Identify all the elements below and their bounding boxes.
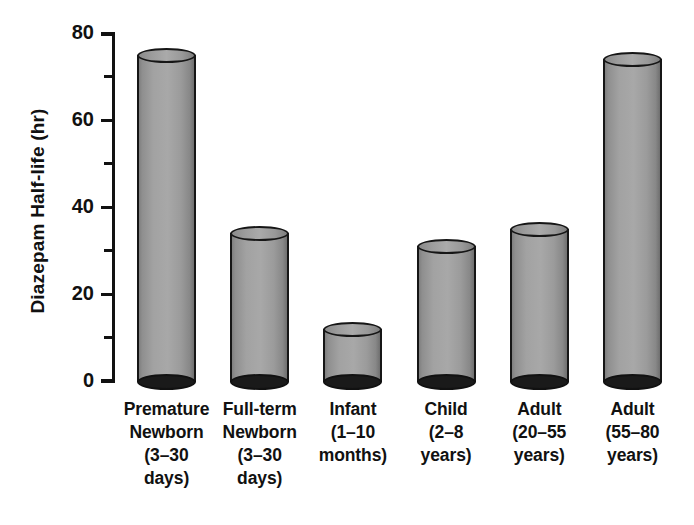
x-axis-category-label: Adult(20–55years) (491, 398, 587, 467)
bar (230, 226, 289, 390)
bar-top-ellipse (417, 239, 476, 254)
x-axis-category-label: Child(2–8years) (398, 398, 494, 467)
x-axis-category-label-line: months) (305, 444, 401, 467)
bar-base-ellipse (510, 374, 569, 390)
bar-base-ellipse (230, 374, 289, 390)
bar-top-ellipse (603, 52, 662, 67)
x-axis-category-label-line: Adult (491, 398, 587, 421)
x-axis-category-label-line: (20–55 (491, 421, 587, 444)
x-axis-category-label-line: days) (119, 467, 215, 490)
bar-body (417, 246, 476, 382)
bar-body (510, 229, 569, 382)
x-axis-category-label-line: years) (398, 444, 494, 467)
x-axis-category-label-line: (2–8 (398, 421, 494, 444)
y-axis-minor-tick (104, 162, 115, 165)
x-axis-category-label-line: Adult (585, 398, 681, 421)
y-axis-major-tick (101, 32, 115, 35)
y-axis-major-tick (101, 119, 115, 122)
x-axis-category-label-line: years) (585, 444, 681, 467)
bar-top-ellipse (510, 222, 569, 237)
y-axis-major-tick (101, 380, 115, 383)
y-axis-tick-label: 80 (34, 22, 94, 42)
bar-top-ellipse (323, 322, 382, 337)
x-axis-category-label: Adult(55–80years) (585, 398, 681, 467)
x-axis-category-label-line: Premature (119, 398, 215, 421)
x-axis-category-label-line: years) (491, 444, 587, 467)
x-axis-category-label: Full-termNewborn(3–30days) (212, 398, 308, 490)
x-axis-category-label-line: Full-term (212, 398, 308, 421)
x-axis-category-label: Infant(1–10months) (305, 398, 401, 467)
x-axis-category-label-line: Child (398, 398, 494, 421)
bar (137, 48, 196, 390)
bar-base-ellipse (137, 374, 196, 390)
bar-base-ellipse (323, 374, 382, 390)
bar-top-ellipse (137, 48, 196, 63)
x-axis-category-label-line: Newborn (119, 421, 215, 444)
x-axis-category-label-line: (3–30 (212, 444, 308, 467)
bar-body (230, 233, 289, 382)
y-axis-tick-label: 20 (34, 283, 94, 303)
x-axis-category-label-line: Newborn (212, 421, 308, 444)
y-axis-minor-tick (104, 249, 115, 252)
x-axis-category-label-line: (55–80 (585, 421, 681, 444)
x-axis-category-label-line: Infant (305, 398, 401, 421)
bar (323, 322, 382, 390)
bar (603, 52, 662, 390)
bar (417, 239, 476, 390)
bar-base-ellipse (417, 374, 476, 390)
y-axis-tick-label: 60 (34, 109, 94, 129)
y-axis-tick-label: 40 (34, 196, 94, 216)
bar-body (137, 55, 196, 382)
y-axis-major-tick (101, 293, 115, 296)
y-axis-major-tick (101, 206, 115, 209)
x-axis-category-label: PrematureNewborn(3–30days) (119, 398, 215, 490)
y-axis-minor-tick (104, 336, 115, 339)
y-axis-minor-tick (104, 75, 115, 78)
bar-chart-figure: Diazepam Half-life (hr) 020406080 Premat… (0, 0, 694, 525)
bar-base-ellipse (603, 374, 662, 390)
x-axis-category-label-line: (3–30 (119, 444, 215, 467)
bar (510, 222, 569, 390)
x-axis-category-label-line: days) (212, 467, 308, 490)
bar-body (603, 59, 662, 382)
x-axis-category-label-line: (1–10 (305, 421, 401, 444)
y-axis-tick-label: 0 (34, 370, 94, 390)
